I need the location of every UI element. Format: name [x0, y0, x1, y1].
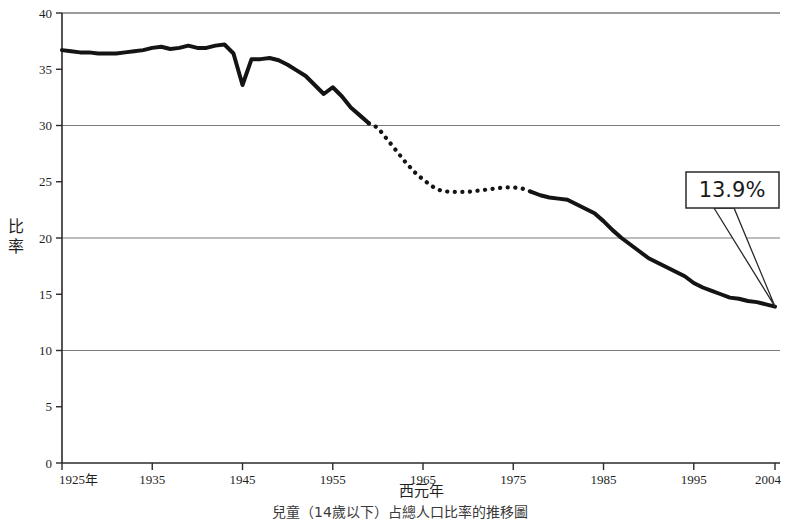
y-tick-label: 5: [46, 399, 53, 414]
x-tick-label: 1925年: [59, 472, 98, 487]
y-axis-title: 比率: [8, 217, 24, 256]
line-chart-figure: 0510152025303540 1925年193519451955196519…: [0, 0, 792, 519]
y-tick-label: 40: [39, 6, 52, 21]
y-tick-label: 35: [39, 62, 52, 77]
chart-background: [0, 0, 792, 519]
x-tick-label: 1935: [139, 472, 165, 487]
y-tick-label: 25: [39, 174, 52, 189]
x-tick-label: 1955: [320, 472, 346, 487]
chart-caption: 兒童（14歲以下）占總人口比率的推移圖: [272, 504, 528, 519]
y-axis-title-char: 比: [8, 217, 24, 236]
y-tick-label: 20: [39, 231, 52, 246]
x-tick-label: 1985: [591, 472, 617, 487]
y-axis-title-char: 率: [8, 237, 24, 256]
x-tick-label: 2004: [755, 472, 782, 487]
callout-label: 13.9%: [699, 178, 766, 202]
x-tick-label: 1945: [230, 472, 256, 487]
y-tick-label: 30: [39, 118, 52, 133]
x-axis-title: 西元年: [399, 482, 444, 500]
y-tick-label: 0: [46, 456, 53, 471]
x-tick-label: 1975: [500, 472, 526, 487]
y-tick-label: 10: [39, 343, 52, 358]
y-tick-label: 15: [39, 287, 52, 302]
x-tick-label: 1995: [681, 472, 707, 487]
chart-container: 0510152025303540 1925年193519451955196519…: [0, 0, 792, 519]
